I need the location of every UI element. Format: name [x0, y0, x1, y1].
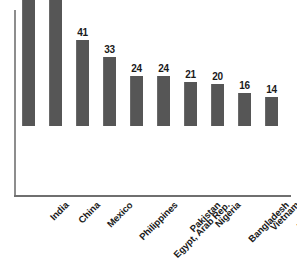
bar-group: 33 [103, 57, 116, 126]
x-tick-label-philippines: Philippines [138, 200, 180, 242]
bar-group: 20 [211, 84, 224, 126]
plot-area: 76 60 41 33 24 24 21 20 [0, 0, 297, 197]
bar[interactable] [238, 93, 251, 126]
bar[interactable] [49, 0, 62, 126]
bar-value-label: 21 [185, 69, 196, 80]
bar-group: 60 [49, 0, 62, 126]
bar-value-label: 24 [158, 63, 169, 74]
bar[interactable] [130, 76, 143, 126]
x-tick-label-mexico: Mexico [105, 200, 134, 229]
bar-value-label: 41 [77, 27, 88, 38]
bar[interactable] [211, 84, 224, 126]
bar[interactable] [103, 57, 116, 126]
bar-group: 21 [184, 82, 197, 126]
x-tick-label-india: India [48, 200, 70, 222]
x-tick-label-china: China [77, 200, 102, 225]
bar-value-label: 20 [212, 71, 223, 82]
bar[interactable] [265, 97, 278, 126]
bar-value-label: 24 [131, 63, 142, 74]
bar-group: 14 [265, 97, 278, 126]
bar-group: 24 [157, 76, 170, 126]
bar-value-label: 33 [104, 44, 115, 55]
bar[interactable] [22, 0, 35, 126]
bar-group: 24 [130, 76, 143, 126]
bar-group: 16 [238, 93, 251, 126]
bar[interactable] [157, 76, 170, 126]
bar-group: 76 [22, 0, 35, 126]
bar-group: 41 [76, 40, 89, 126]
bar-chart: 76 60 41 33 24 24 21 20 [0, 0, 297, 268]
x-tick-label-egypt: Egypt, Arab Rep. [172, 200, 232, 260]
bar-value-label: 14 [266, 84, 277, 95]
bar[interactable] [76, 40, 89, 126]
bar[interactable] [184, 82, 197, 126]
bar-value-label: 16 [239, 80, 250, 91]
